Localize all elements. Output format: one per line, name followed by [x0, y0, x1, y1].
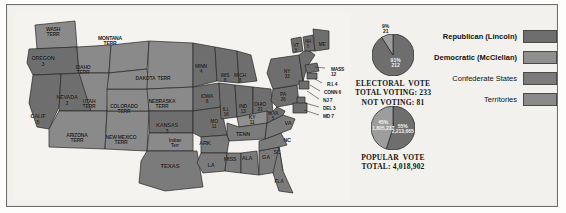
legend-item: Confederate States [413, 71, 557, 85]
legend-item-label: Confederate States [452, 74, 523, 83]
legend-color-swatch [523, 51, 557, 64]
us-states-shapes: .st{stroke:#272727;stroke-width:.7;strok… [15, 11, 351, 201]
election-map-figure: 1864 .st{stroke:#272727;stroke-width:.7;… [0, 0, 566, 213]
pie-slice-label: 9% 21 [364, 24, 408, 35]
legend-item: Territories [413, 92, 557, 106]
legend-item-label: Democratic (McClellan) [434, 53, 523, 62]
legend-item: Republican (Lincoln) [413, 29, 557, 43]
popular-vote-pie: 55% 2,213,66545% 1,805,237 [371, 106, 415, 150]
map-canvas: .st{stroke:#272727;stroke-width:.7;strok… [15, 11, 351, 201]
pie-slice-label: 45% 1,805,237 [361, 120, 405, 131]
popular-vote-pie-caption: POPULAR VOTE TOTAL: 4,018,902 [343, 153, 443, 172]
legend-item: Democratic (McClellan) [413, 50, 557, 64]
map-legend: Republican (Lincoln)Democratic (McClella… [413, 29, 557, 113]
electoral-vote-pie: 91% 2129% 21 [372, 34, 414, 76]
pie-slice-label: 91% 212 [374, 58, 418, 69]
legend-item-label: Republican (Lincoln) [443, 32, 523, 41]
legend-color-swatch [523, 72, 557, 85]
legend-color-swatch [523, 30, 557, 43]
figure-frame: 1864 .st{stroke:#272727;stroke-width:.7;… [6, 4, 558, 207]
legend-color-swatch [523, 93, 557, 106]
legend-item-label: Territories [484, 95, 523, 104]
